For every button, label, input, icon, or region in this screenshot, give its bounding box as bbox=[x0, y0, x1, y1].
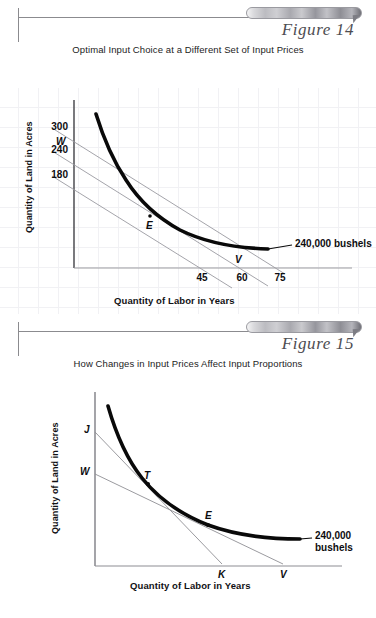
tangency-point-e-marker bbox=[148, 214, 152, 218]
figure-15-chart: J W T E K V 240,000 bushels Quantity of … bbox=[0, 384, 376, 608]
isocost-line-high bbox=[52, 128, 285, 274]
point-label-e: E bbox=[205, 510, 212, 521]
header-rule bbox=[18, 17, 280, 18]
figure-14-y-axis-title: Quantity of Land in Acres bbox=[24, 121, 34, 233]
tangency-point-t-marker bbox=[146, 482, 150, 486]
figure-14-header: Figure 14 Optimal Input Choice at a Diff… bbox=[0, 0, 376, 58]
figure-15-header: Figure 15 How Changes in Input Prices Af… bbox=[0, 314, 376, 372]
figure-15-number: Figure 15 bbox=[282, 334, 354, 354]
point-label-j: J bbox=[84, 424, 90, 435]
point-label-w: W bbox=[56, 136, 65, 147]
isocost-line-j-k bbox=[95, 432, 222, 564]
header-tab-decoration bbox=[246, 7, 362, 19]
isoquant-label-240000-bushels: 240,000 bushels bbox=[315, 530, 353, 554]
x-tick-label-60: 60 bbox=[230, 272, 254, 283]
header-tab-decoration bbox=[246, 321, 362, 333]
point-label-v: V bbox=[280, 569, 287, 580]
header-rule bbox=[18, 331, 280, 332]
point-label-v: V bbox=[235, 254, 242, 265]
isoquant-label-240000-bushels: 240,000 bushels bbox=[295, 238, 372, 250]
point-label-w: W bbox=[80, 466, 89, 477]
header-tick-mark bbox=[18, 8, 19, 42]
x-tick-label-75: 75 bbox=[268, 272, 292, 283]
point-label-k: K bbox=[218, 569, 225, 580]
isoquant-curve-240000 bbox=[96, 114, 268, 249]
figure-14-x-axis-title: Quantity of Labor in Years bbox=[114, 295, 235, 306]
isoquant-label-leader bbox=[268, 245, 292, 249]
figure-14-number: Figure 14 bbox=[282, 20, 354, 40]
isoquant-curve-240000 bbox=[108, 406, 300, 539]
figure-15-subtitle: How Changes in Input Prices Affect Input… bbox=[0, 358, 376, 369]
point-label-e: E bbox=[146, 220, 153, 231]
point-label-t: T bbox=[144, 470, 150, 481]
isocost-line-w-v bbox=[95, 474, 283, 564]
figure-14-subtitle: Optimal Input Choice at a Different Set … bbox=[0, 44, 376, 55]
header-tick-mark bbox=[18, 322, 19, 356]
tangency-point-e-marker bbox=[206, 523, 210, 527]
isoquant-label-line-1: 240,000 bbox=[315, 530, 353, 542]
figure-15-x-axis-title: Quantity of Labor in Years bbox=[130, 580, 251, 591]
figure-14: Figure 14 Optimal Input Choice at a Diff… bbox=[0, 0, 376, 314]
figure-15: Figure 15 How Changes in Input Prices Af… bbox=[0, 314, 376, 618]
isoquant-label-leader bbox=[300, 538, 312, 539]
isoquant-label-line-2: bushels bbox=[315, 542, 353, 554]
x-tick-label-45: 45 bbox=[190, 272, 214, 283]
figure-15-y-axis-title: Quantity of Land in Acres bbox=[50, 422, 60, 534]
figure-14-chart: 300 240 180 45 60 75 W E V 240,000 bushe… bbox=[0, 88, 376, 314]
